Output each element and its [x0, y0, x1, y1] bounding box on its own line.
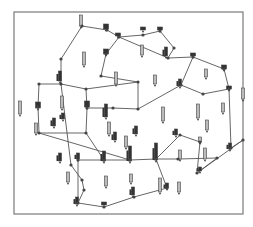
edge: [181, 85, 203, 94]
bar-glyph: [67, 172, 70, 184]
graph-node: [136, 107, 139, 110]
graph-node: [158, 29, 161, 32]
edge: [180, 135, 200, 142]
bar-glyph: [173, 129, 178, 137]
graph-node: [229, 146, 232, 149]
edge: [231, 140, 243, 148]
bar-glyph: [61, 96, 64, 110]
diagram-frame: [14, 12, 243, 214]
bar-glyph: [162, 107, 165, 123]
graph-node: [36, 105, 39, 108]
bar-glyph: [112, 132, 117, 142]
edge: [78, 190, 84, 203]
edge: [86, 108, 87, 133]
graph-node: [104, 52, 107, 55]
graph-node: [80, 178, 83, 181]
graph-node: [195, 171, 198, 174]
graph-node: [172, 46, 175, 49]
bar-glyph: [103, 104, 108, 119]
graph-node: [111, 106, 114, 109]
bar-glyph: [130, 174, 133, 184]
edge: [134, 188, 167, 197]
bar-glyph: [60, 113, 65, 121]
edge: [193, 57, 224, 69]
graph-node: [128, 158, 131, 161]
graph-node: [84, 87, 87, 90]
bar-glyph: [108, 122, 111, 136]
graph-node: [37, 82, 40, 85]
edge: [138, 85, 181, 109]
edge: [160, 31, 174, 48]
edge: [168, 48, 174, 58]
bar-glyph: [133, 126, 138, 136]
bar-glyph: [197, 104, 200, 120]
graph-node: [76, 201, 79, 204]
graph-node: [76, 158, 79, 161]
graph-node: [69, 163, 72, 166]
bar-glyph: [222, 103, 225, 114]
graph-node: [241, 138, 244, 141]
graph-node: [165, 186, 168, 189]
bar-glyph: [57, 153, 62, 163]
bar-glyph: [141, 45, 144, 57]
graph-node: [105, 28, 108, 31]
bar-glyph: [178, 182, 181, 194]
bar-glyph: [51, 118, 56, 128]
graph-node: [198, 140, 201, 143]
bar-glyph-layer: [19, 15, 245, 207]
graph-node: [227, 87, 230, 90]
graph-node: [178, 133, 181, 136]
edge: [38, 107, 39, 133]
bar-glyph: [159, 178, 162, 194]
bar-glyph: [141, 27, 146, 32]
edge: [178, 158, 217, 159]
graph-node: [82, 188, 85, 191]
graph-node: [80, 24, 83, 27]
graph-node: [117, 35, 120, 38]
graph-node: [85, 106, 88, 109]
graph-node: [37, 131, 40, 134]
bar-glyph: [125, 136, 128, 149]
edge: [130, 159, 156, 160]
edge: [78, 203, 104, 207]
graph-node: [166, 56, 169, 59]
edge: [61, 26, 82, 59]
edge: [156, 135, 180, 159]
bar-glyph: [83, 52, 86, 67]
graph-node: [59, 82, 62, 85]
edge: [86, 82, 138, 89]
edge: [168, 57, 193, 58]
graph-node: [141, 33, 144, 36]
bar-glyph: [35, 123, 38, 135]
graph-node: [154, 157, 157, 160]
bar-glyph: [204, 148, 207, 161]
graph-node: [99, 74, 102, 77]
graph-node: [136, 80, 139, 83]
edge: [203, 89, 229, 94]
edge: [61, 84, 86, 89]
edge: [229, 89, 231, 148]
network-diagram: [0, 0, 253, 227]
graph-node: [191, 55, 194, 58]
graph-node: [102, 205, 105, 208]
edge: [101, 76, 138, 82]
edge: [104, 197, 134, 207]
edge: [143, 31, 160, 35]
edge: [101, 54, 106, 76]
graph-node: [179, 83, 182, 86]
bar-glyph: [19, 101, 22, 116]
graph-node: [59, 57, 62, 60]
bar-glyph: [101, 151, 106, 163]
graph-node: [215, 156, 218, 159]
bar-glyph: [154, 75, 157, 86]
bar-glyph: [205, 69, 208, 79]
edge: [119, 35, 143, 37]
graph-node: [176, 157, 179, 160]
graph-node: [201, 92, 204, 95]
graph-node: [222, 67, 225, 70]
edge: [113, 108, 138, 109]
graph-node: [132, 195, 135, 198]
bar-glyph: [105, 176, 108, 188]
graph-node: [102, 158, 105, 161]
edge: [181, 57, 193, 85]
